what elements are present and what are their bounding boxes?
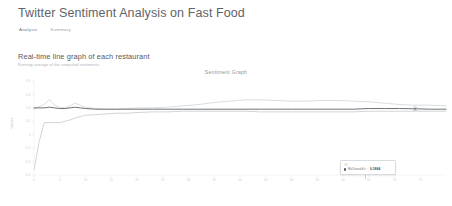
app-header: Twitter Sentiment Analysis on Fast Food … (0, 0, 452, 44)
tooltip-value: 0.3864 (370, 167, 380, 171)
svg-text:0.6: 0.6 (26, 93, 31, 97)
section-title: Real-time line graph of each restaurant (18, 52, 150, 61)
svg-text:30: 30 (187, 178, 191, 182)
svg-text:-0.4: -0.4 (25, 160, 31, 164)
svg-text:0.8: 0.8 (26, 79, 31, 83)
chart-plot-area: -0.6-0.4-0.200.20.40.60.8051015202530354… (0, 77, 452, 197)
svg-text:0: 0 (33, 178, 35, 182)
svg-text:10: 10 (84, 178, 88, 182)
svg-text:5: 5 (59, 178, 61, 182)
tab-analysis[interactable]: Analysis (19, 27, 37, 34)
tooltip-series-dot-icon (344, 168, 346, 170)
tab-summary[interactable]: Summary (50, 27, 71, 34)
svg-text:0: 0 (29, 133, 31, 137)
svg-text:15: 15 (109, 178, 113, 182)
tooltip-series-name: McDonald's (348, 167, 366, 171)
chart-card: Real-time line graph of each restaurant … (0, 43, 452, 206)
svg-text:70: 70 (393, 178, 397, 182)
svg-text:75: 75 (418, 178, 422, 182)
svg-text:35: 35 (212, 178, 216, 182)
chart-title: Sentiment Graph (0, 69, 452, 75)
svg-text:55: 55 (315, 178, 319, 182)
svg-text:-0.2: -0.2 (25, 146, 31, 150)
tab-bar: Analysis Summary (19, 27, 71, 34)
svg-text:-0.6: -0.6 (25, 173, 31, 177)
svg-text:40: 40 (238, 178, 242, 182)
page-title: Twitter Sentiment Analysis on Fast Food (18, 6, 245, 20)
svg-text:0.4: 0.4 (26, 106, 31, 110)
svg-text:25: 25 (161, 178, 165, 182)
svg-text:60: 60 (341, 178, 345, 182)
svg-text:0.2: 0.2 (26, 119, 31, 123)
svg-text:45: 45 (264, 178, 268, 182)
tooltip-row: McDonald's : 0.3864 (344, 167, 392, 171)
tooltip-separator: : (367, 167, 368, 171)
chart-tooltip: 74 McDonald's : 0.3864 (340, 160, 396, 175)
svg-text:50: 50 (290, 178, 294, 182)
sentiment-chart: Sentiment Graph Values -0.6-0.4-0.200.20… (0, 69, 452, 206)
tooltip-header: 74 (344, 163, 392, 167)
section-subtitle: Running average of the computed sentimen… (18, 63, 100, 67)
svg-text:20: 20 (135, 178, 139, 182)
page-root: Twitter Sentiment Analysis on Fast Food … (0, 0, 452, 206)
svg-text:65: 65 (367, 178, 371, 182)
